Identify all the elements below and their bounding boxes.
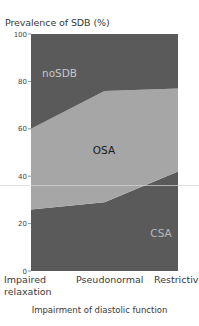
x-category-2-line-1: Restrictive	[154, 274, 199, 286]
y-axis: 020406080100	[14, 31, 31, 276]
x-category-0-line-2: relaxation	[4, 286, 52, 298]
x-category-1-line-1: Pseudonormal	[76, 274, 144, 286]
series-label-nosdb: noSDB	[42, 67, 77, 79]
scan-line-artifact	[0, 185, 199, 186]
x-axis-title: Impairment of diastolic function	[0, 305, 199, 315]
y-tick-label: 40	[18, 173, 27, 181]
y-tick-label: 20	[18, 220, 27, 228]
y-tick-label: 60	[18, 125, 27, 133]
x-category-0-line-1: Impaired	[4, 274, 52, 286]
y-tick-label: 80	[18, 78, 27, 86]
x-category-1: Pseudonormal	[76, 274, 144, 286]
series-label-osa: OSA	[93, 144, 116, 156]
x-category-0: Impaired relaxation	[4, 274, 52, 298]
y-tick-label: 100	[14, 31, 27, 39]
series-label-csa: CSA	[150, 227, 172, 239]
x-category-2: Restrictive	[154, 274, 199, 286]
